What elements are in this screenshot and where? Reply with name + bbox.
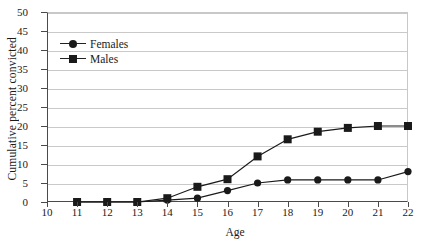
x-tick-label: 20: [333, 206, 363, 218]
x-tick-label: 22: [393, 206, 423, 218]
x-tick-mark: [378, 202, 379, 207]
x-tick-mark: [348, 202, 349, 207]
x-tick-mark: [77, 202, 78, 207]
x-tick-mark: [137, 202, 138, 207]
x-tick-label: 17: [243, 206, 273, 218]
data-point-females: [284, 176, 291, 183]
x-tick-label: 19: [303, 206, 333, 218]
x-tick-label: 16: [213, 206, 243, 218]
series-line-males: [77, 126, 408, 202]
data-point-males: [254, 152, 262, 160]
data-point-females: [224, 187, 231, 194]
data-point-males: [163, 194, 171, 202]
legend-label-females: Females: [90, 38, 128, 50]
x-axis-title: Age: [45, 226, 425, 238]
legend-label-males: Males: [90, 53, 118, 65]
x-tick-label: 15: [182, 206, 212, 218]
y-tick-mark: [41, 164, 47, 165]
y-tick-label: 15: [0, 139, 28, 151]
y-tick-mark: [41, 145, 47, 146]
data-point-males: [314, 128, 322, 136]
y-tick-label: 0: [0, 196, 28, 208]
data-point-males: [284, 135, 292, 143]
chart-container: Cumulative percent convicted 05101520253…: [0, 0, 439, 251]
data-point-males: [193, 183, 201, 191]
x-tick-label: 10: [32, 206, 62, 218]
legend-item-females: Females: [60, 36, 128, 51]
y-tick-mark: [41, 31, 47, 32]
x-tick-label: 13: [122, 206, 152, 218]
y-tick-label: 50: [0, 6, 28, 18]
x-tick-label: 21: [363, 206, 393, 218]
x-tick-mark: [258, 202, 259, 207]
y-tick-label: 10: [0, 158, 28, 170]
x-tick-label: 11: [62, 206, 92, 218]
y-tick-mark: [41, 88, 47, 89]
data-point-females: [404, 168, 411, 175]
y-tick-label: 5: [0, 177, 28, 189]
data-point-females: [194, 195, 201, 202]
data-point-males: [404, 122, 412, 130]
y-tick-mark: [41, 126, 47, 127]
x-tick-label: 18: [273, 206, 303, 218]
data-point-females: [374, 176, 381, 183]
y-tick-mark: [41, 50, 47, 51]
y-tick-label: 20: [0, 120, 28, 132]
y-tick-label: 30: [0, 82, 28, 94]
x-tick-mark: [167, 202, 168, 207]
data-point-females: [254, 179, 261, 186]
y-tick-label: 25: [0, 101, 28, 113]
legend-item-males: Males: [60, 51, 128, 66]
x-tick-mark: [107, 202, 108, 207]
y-tick-label: 45: [0, 25, 28, 37]
y-tick-mark: [41, 69, 47, 70]
y-tick-label: 35: [0, 63, 28, 75]
x-tick-mark: [47, 202, 48, 207]
chart-legend: Females Males: [60, 36, 128, 66]
x-tick-mark: [408, 202, 409, 207]
legend-marker-circle-icon: [60, 36, 86, 51]
x-tick-label: 14: [152, 206, 182, 218]
y-tick-mark: [41, 183, 47, 184]
data-point-males: [344, 124, 352, 132]
data-point-males: [224, 175, 232, 183]
y-tick-label: 40: [0, 44, 28, 56]
y-tick-mark: [41, 12, 47, 13]
y-tick-mark: [41, 107, 47, 108]
x-tick-mark: [228, 202, 229, 207]
data-point-females: [344, 176, 351, 183]
x-tick-label: 12: [92, 206, 122, 218]
data-point-males: [374, 122, 382, 130]
x-tick-mark: [288, 202, 289, 207]
x-tick-mark: [197, 202, 198, 207]
x-tick-mark: [318, 202, 319, 207]
legend-marker-square-icon: [60, 51, 86, 66]
data-point-females: [314, 176, 321, 183]
series-line-females: [77, 172, 408, 202]
